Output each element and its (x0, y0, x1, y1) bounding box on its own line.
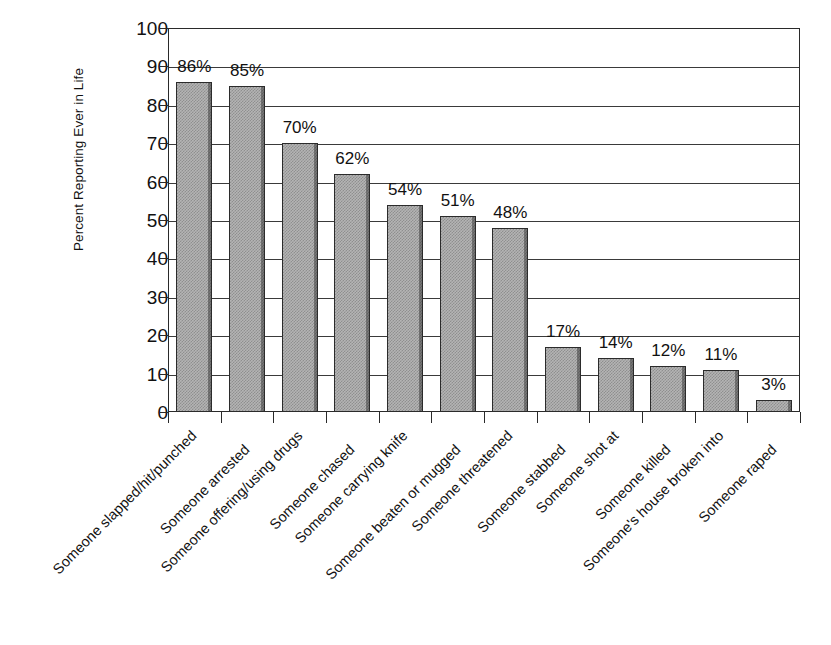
gridline (169, 259, 799, 260)
gridline (169, 375, 799, 376)
y-tick-mark (160, 182, 168, 183)
y-tick-mark (160, 335, 168, 336)
x-axis-category-labels: Someone slapped/hit/punchedSomeone arres… (0, 412, 831, 645)
y-axis-title: Percent Reporting Ever in Life (71, 20, 86, 300)
gridline (169, 67, 799, 68)
y-axis-ticks: 0102030405060708090100 (108, 28, 168, 412)
gridline (169, 336, 799, 337)
y-tick-mark (160, 297, 168, 298)
gridline (169, 183, 799, 184)
y-tick-mark (160, 143, 168, 144)
bar-chart: Percent Reporting Ever in Life 010203040… (0, 0, 831, 645)
x-category-label: Someone slapped/hit/punched (0, 428, 199, 645)
y-tick-mark (160, 374, 168, 375)
gridline (169, 221, 799, 222)
y-tick-mark (160, 220, 168, 221)
y-tick-mark (160, 66, 168, 67)
gridline (169, 298, 799, 299)
gridline (169, 144, 799, 145)
y-tick-mark (160, 258, 168, 259)
y-tick-mark (160, 28, 168, 29)
plot-area (168, 28, 800, 412)
y-tick-mark (160, 105, 168, 106)
gridline (169, 106, 799, 107)
